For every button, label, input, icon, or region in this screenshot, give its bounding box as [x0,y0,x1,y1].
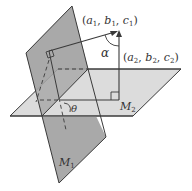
plane-m2-label: M2 [120,101,136,114]
alpha-label: α [101,47,109,59]
plane-m1-lower [42,116,106,183]
normal-1-label: (a1, b1, c1) [82,15,138,28]
normal-2-label: (a2, b2, c2) [123,52,179,65]
planes-diagram [0,0,192,191]
plane-m1-label: M1 [59,157,75,170]
diagram-canvas: (a1, b1, c1) (a2, b2, c2) α θ M2 M1 [0,0,192,191]
theta-label: θ [71,104,77,114]
